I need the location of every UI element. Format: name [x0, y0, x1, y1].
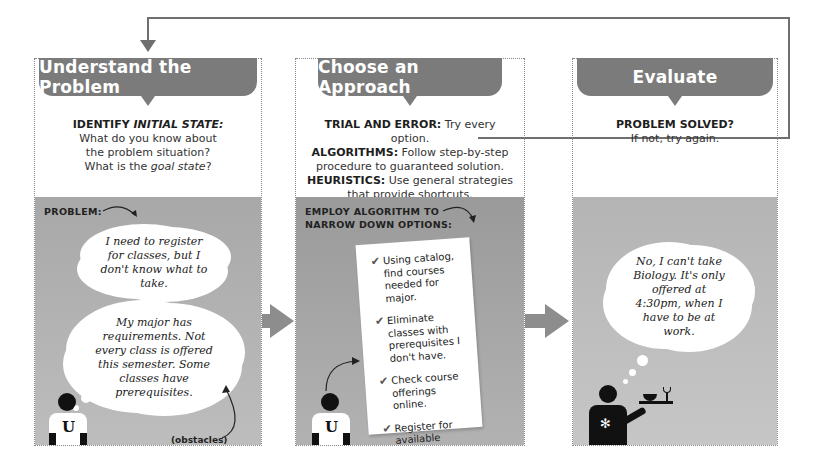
- scene-label: PROBLEM:: [44, 205, 102, 218]
- thought-cloud: My major has requirements. Not every cla…: [75, 307, 233, 409]
- problem-solving-diagram: Understand the Problem IDENTIFY INITIAL …: [0, 0, 820, 474]
- next-arrow: [525, 314, 547, 328]
- curved-arrow-icon: [101, 203, 141, 221]
- step-description: IDENTIFY INITIAL STATE: What do you know…: [35, 118, 261, 174]
- check-icon: ✔: [382, 423, 394, 445]
- step-choose-approach: Choose an Approach TRIAL AND ERROR: Try …: [295, 58, 525, 446]
- problem-scene: PROBLEM: I need to register for classes,…: [35, 197, 261, 445]
- checklist-item: ✔Eliminate classes with prerequisites I …: [375, 310, 470, 366]
- curved-arrow-icon: [322, 357, 362, 393]
- arrow-down-icon: [140, 40, 156, 52]
- checklist-item: ✔Check course offerings online.: [379, 369, 473, 413]
- annotation: (obstacles): [171, 435, 227, 445]
- student-u-icon: U: [310, 393, 354, 445]
- curved-arrow-icon: [220, 383, 250, 443]
- thought-bubble: [637, 355, 648, 366]
- thought-bubble: [623, 379, 628, 384]
- curved-arrow-icon: [441, 203, 481, 225]
- evaluate-scene: No, I can't take Biology. It's only offe…: [573, 197, 777, 445]
- arrow-right-icon: [270, 304, 294, 338]
- student-u-icon: U: [47, 393, 91, 445]
- check-icon: ✔: [375, 315, 388, 366]
- scene-label: EMPLOY ALGORITHM TO NARROW DOWN OPTIONS:: [305, 205, 452, 231]
- arrow-right-icon: [545, 304, 569, 338]
- step-description: PROBLEM SOLVED? If not, try again.: [573, 118, 777, 146]
- step-title: Choose an Approach: [318, 58, 502, 96]
- checklist-note: ✔Using catalog, find courses needed for …: [356, 237, 483, 434]
- algorithm-scene: EMPLOY ALGORITHM TO NARROW DOWN OPTIONS:…: [296, 197, 524, 445]
- gear-icon: ✻: [600, 417, 611, 430]
- checklist-item: ✔Register for available classes.: [382, 417, 476, 445]
- step-title: Evaluate: [577, 58, 773, 96]
- step-description: TRIAL AND ERROR: Try every option. ALGOR…: [296, 118, 524, 202]
- step-title: Understand the Problem: [39, 58, 257, 96]
- thought-bubble: [629, 369, 636, 376]
- check-icon: ✔: [370, 256, 383, 307]
- checklist-item: ✔Using catalog, find courses needed for …: [370, 250, 465, 306]
- check-icon: ✔: [379, 375, 391, 413]
- step-evaluate: Evaluate PROBLEM SOLVED? If not, try aga…: [572, 58, 778, 446]
- waiter-icon: ✻: [585, 385, 675, 445]
- thought-cloud: No, I can't take Biology. It's only offe…: [615, 249, 743, 345]
- step-understand-problem: Understand the Problem IDENTIFY INITIAL …: [34, 58, 262, 446]
- thought-cloud: I need to register for classes, but I do…: [89, 231, 219, 295]
